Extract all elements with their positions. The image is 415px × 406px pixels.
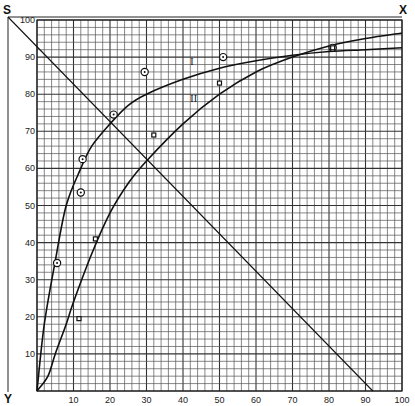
y-tick-label: 40 (25, 238, 35, 248)
x-tick-label: 20 (105, 395, 115, 405)
square-marker (331, 46, 335, 50)
x-tick-label: 70 (287, 395, 297, 405)
y-tick-label: 10 (25, 349, 35, 359)
chart: 1020304050607080901001020304050607080901… (0, 0, 415, 406)
x-tick-label: 80 (324, 395, 334, 405)
corner-label-y: Y (4, 392, 12, 406)
square-marker (218, 81, 222, 85)
x-tick-label: 60 (251, 395, 261, 405)
x-tick-label: 40 (178, 395, 188, 405)
curve-label-i: I (190, 56, 193, 67)
grid (37, 20, 402, 391)
y-tick-label: 30 (25, 275, 35, 285)
curve-label-ii: II (190, 93, 197, 104)
circle-marker-dot (222, 56, 224, 58)
y-tick-label: 80 (25, 89, 35, 99)
square-marker (77, 317, 81, 321)
square-marker (93, 237, 97, 241)
circle-marker-dot (113, 114, 115, 116)
circle-marker-dot (144, 71, 146, 73)
circle-marker-dot (80, 192, 82, 194)
x-tick-label: 90 (360, 395, 370, 405)
y-tick-label: 90 (25, 52, 35, 62)
x-tick-label: 10 (68, 395, 78, 405)
x-tick-label: 100 (394, 395, 409, 405)
y-tick-label: 100 (20, 15, 35, 25)
circle-marker-dot (56, 262, 58, 264)
y-tick-label: 60 (25, 163, 35, 173)
y-tick-label: 50 (25, 201, 35, 211)
y-tick-label: 70 (25, 126, 35, 136)
x-tick-label: 30 (141, 395, 151, 405)
corner-label-x: X (399, 3, 407, 17)
corner-label-s: S (3, 3, 11, 17)
x-tick-label: 50 (214, 395, 224, 405)
y-tick-label: 20 (25, 312, 35, 322)
square-marker (152, 133, 156, 137)
circle-marker-dot (82, 158, 84, 160)
